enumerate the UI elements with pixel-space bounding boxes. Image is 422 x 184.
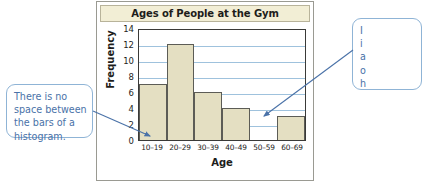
plot-frame	[138, 29, 306, 141]
y-tick-label: 6	[129, 89, 134, 98]
histogram-bar	[277, 116, 305, 140]
y-tick-label: 14	[123, 25, 134, 34]
callout-left-line-3: the bars of a	[14, 116, 85, 129]
y-tick-label: 8	[129, 73, 134, 82]
bar-slot	[277, 30, 305, 140]
callout-right-line-2: i	[360, 37, 414, 50]
chart-title-bar: Ages of People at the Gym	[100, 5, 310, 22]
callout-right-line-5: h	[360, 77, 414, 90]
x-tick-label: 10–19	[138, 143, 166, 152]
y-axis-ticks: 02468101214	[111, 23, 135, 147]
callout-right-line-4: o	[360, 64, 414, 77]
bars-layer	[139, 30, 305, 140]
x-axis-ticks: 10–1920–2930–3940–4950–5960–69	[138, 143, 306, 152]
histogram-gap-note: I i a o h	[352, 18, 422, 90]
y-tick-label: 0	[129, 137, 134, 146]
x-tick-label: 60–69	[278, 143, 306, 152]
bar-slot	[139, 30, 167, 140]
bar-slot	[250, 30, 278, 140]
no-space-between-bars-note: There is no space between the bars of a …	[6, 84, 93, 138]
callout-left-line-2: space between	[14, 103, 85, 116]
bar-slot	[222, 30, 250, 140]
y-tick-label: 2	[129, 121, 134, 130]
callout-right-line-1: I	[360, 24, 414, 37]
histogram-bar	[139, 84, 167, 140]
x-tick-label: 50–59	[250, 143, 278, 152]
x-tick-label: 30–39	[194, 143, 222, 152]
page-title: Ages of People at the Gym	[131, 8, 278, 19]
callout-right-line-3: a	[360, 50, 414, 63]
y-tick-label: 10	[123, 57, 134, 66]
bar-slot	[167, 30, 195, 140]
histogram-bar	[167, 44, 195, 140]
callout-left-line-4: histogram.	[14, 130, 85, 143]
y-tick-label: 4	[129, 105, 134, 114]
x-axis-label: Age	[138, 157, 306, 168]
bar-slot	[194, 30, 222, 140]
y-tick-label: 12	[123, 41, 134, 50]
histogram-bar	[194, 92, 222, 140]
callout-left-line-1: There is no	[14, 90, 85, 103]
histogram-card: Ages of People at the Gym Frequency 0246…	[96, 1, 314, 181]
x-tick-label: 40–49	[222, 143, 250, 152]
x-tick-label: 20–29	[166, 143, 194, 152]
plot-area	[138, 29, 306, 141]
histogram-bar	[222, 108, 250, 140]
